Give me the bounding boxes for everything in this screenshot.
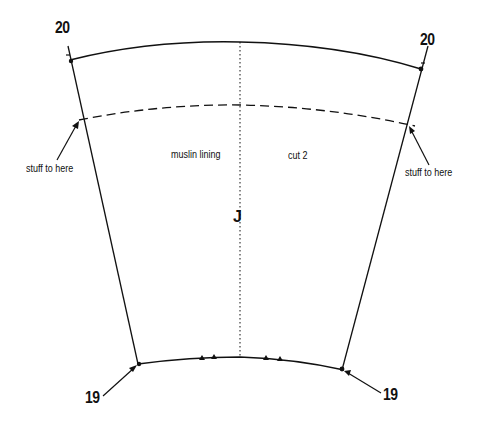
piece-letter: J	[233, 208, 242, 226]
point-label-bottom-right: 19	[383, 385, 398, 405]
arrow-stuff-left	[57, 124, 77, 160]
annotation-stuff-left: stuff to here	[26, 163, 73, 174]
point-label-bottom-left: 19	[85, 388, 100, 408]
stuffing-line	[79, 105, 415, 126]
arrow-19-right	[348, 373, 381, 393]
annotation-stuff-right: stuff to here	[405, 167, 452, 178]
notch-marker	[211, 354, 217, 359]
corner-dot-top-left	[69, 59, 73, 63]
right-edge-line	[342, 46, 428, 370]
corner-dot-bottom-right	[340, 367, 345, 372]
bottom-edge-curve	[138, 357, 344, 370]
point-label-top-right: 20	[420, 30, 435, 50]
notch-marker	[277, 356, 283, 361]
top-edge-curve	[70, 42, 421, 69]
arrowhead-icon	[344, 370, 351, 376]
arrow-19-left	[103, 368, 134, 396]
arrow-stuff-right	[411, 130, 429, 165]
left-edge-line	[68, 46, 138, 364]
material-label: muslin lining	[171, 149, 221, 160]
pattern-piece-drawing	[0, 0, 484, 428]
corner-dot-bottom-left	[137, 362, 141, 366]
point-label-top-left: 20	[55, 18, 70, 38]
cut-instruction: cut 2	[288, 150, 308, 161]
notch-marker	[263, 355, 269, 360]
corner-dot-top-right	[419, 67, 424, 72]
